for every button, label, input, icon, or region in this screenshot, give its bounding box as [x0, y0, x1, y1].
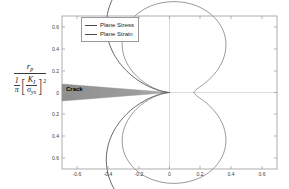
plot-canvas: -0.6 -0.4 -0.2 0 0.2 0.4 0.6 0.6 0.4 0.2… [0, 0, 289, 189]
y-tick-label: 0.6 [52, 24, 59, 30]
legend-item-plane-stress[interactable]: Plane Stress [85, 21, 134, 29]
x-tick-labels: -0.6 -0.4 -0.2 0 0.2 0.4 0.6 [73, 171, 266, 177]
legend-item-plane-strain[interactable]: Plane Strain [85, 30, 134, 38]
y-tick-label: 0.6 [52, 155, 59, 161]
x-tick-label: -0.4 [104, 171, 113, 177]
legend-item-label: Plane Strain [100, 31, 133, 37]
y-tick-label: 0.2 [52, 68, 59, 74]
x-tick-label: -0.6 [73, 171, 82, 177]
legend-line-icon [85, 34, 97, 35]
y-tick-label: 0.4 [52, 46, 59, 52]
x-tick-label: 0.2 [197, 171, 204, 177]
legend-line-icon [85, 25, 97, 26]
y-tick-label: 0.2 [52, 111, 59, 117]
x-tick-label: 0.6 [259, 171, 266, 177]
x-tick-label: -0.2 [135, 171, 144, 177]
y-tick-labels: 0.6 0.4 0.2 0 0.2 0.4 0.6 [52, 24, 59, 161]
crack-annotation-label: Crack [66, 86, 83, 92]
legend-item-label: Plane Stress [100, 22, 134, 28]
x-tick-label: 0.4 [228, 171, 235, 177]
y-tick-label: 0 [56, 90, 59, 96]
y-tick-label: 0.4 [52, 133, 59, 139]
plastic-zone-figure: rp 1 π [ KI σys ]2 [0, 0, 289, 189]
x-tick-label: 0 [168, 171, 171, 177]
chart-legend: Plane Stress Plane Strain [81, 17, 139, 42]
